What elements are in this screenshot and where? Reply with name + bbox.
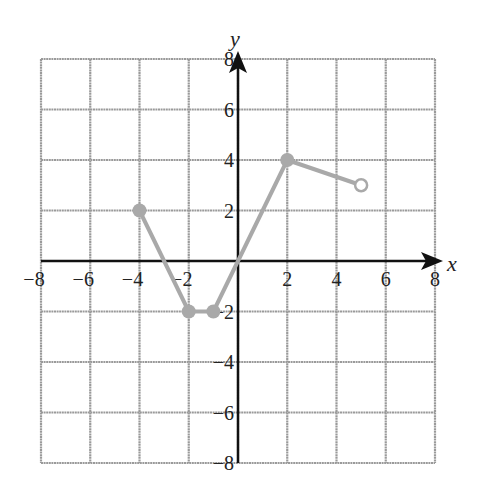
x-tick-label: 4	[332, 268, 342, 290]
y-tick-label: −6	[213, 402, 234, 424]
y-tick-label: 2	[224, 200, 234, 222]
x-axis-label: x	[446, 251, 457, 276]
y-axis-label: y	[228, 26, 240, 51]
y-tick-label: 6	[224, 99, 234, 121]
y-tick-label: −8	[213, 452, 234, 474]
open-point-marker	[355, 179, 367, 191]
curve	[133, 153, 368, 319]
y-tick-label: −4	[213, 351, 234, 373]
filled-point-marker	[182, 305, 196, 319]
x-tick-label: −4	[122, 268, 143, 290]
filled-point-marker	[280, 153, 294, 167]
filled-point-marker	[206, 305, 220, 319]
y-tick-label: 4	[224, 149, 234, 171]
x-tick-label: 6	[381, 268, 391, 290]
x-tick-label: −6	[73, 268, 94, 290]
x-tick-label: −8	[23, 268, 44, 290]
x-tick-label: 2	[282, 268, 292, 290]
x-tick-label: 8	[430, 268, 440, 290]
y-tick-label: 8	[224, 48, 234, 70]
filled-point-marker	[133, 204, 147, 218]
function-graph: −8−6−4−22468−8−6−4−22468 x y	[0, 0, 481, 499]
